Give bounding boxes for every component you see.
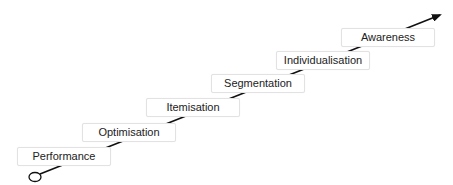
step-label: Awareness [361, 31, 415, 43]
step-label: Segmentation [224, 77, 292, 89]
step-label: Individualisation [284, 54, 362, 66]
step-itemisation: Itemisation [146, 98, 240, 117]
step-performance: Performance [17, 147, 111, 166]
step-label: Optimisation [98, 126, 159, 138]
step-awareness: Awareness [341, 28, 435, 47]
step-label: Itemisation [166, 101, 219, 113]
step-individualisation: Individualisation [276, 51, 370, 70]
step-segmentation: Segmentation [211, 74, 305, 93]
start-circle-icon [29, 173, 41, 182]
step-optimisation: Optimisation [82, 123, 176, 142]
step-label: Performance [33, 150, 96, 162]
